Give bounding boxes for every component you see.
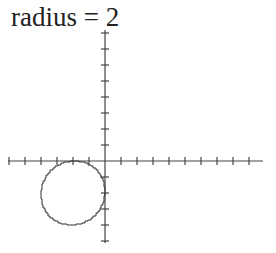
coordinate-plot	[0, 0, 276, 253]
circle-shape	[41, 161, 105, 225]
circle-outline	[41, 161, 105, 225]
